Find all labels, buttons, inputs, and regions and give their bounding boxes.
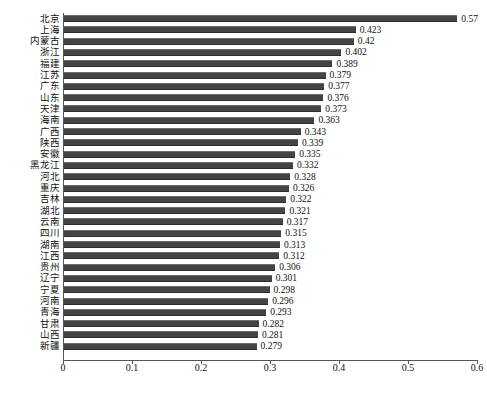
bar bbox=[64, 252, 279, 259]
bar-row: 河南0.296 bbox=[0, 296, 487, 307]
bar bbox=[64, 162, 293, 169]
bar-track: 0.298 bbox=[64, 284, 487, 295]
bar bbox=[64, 72, 326, 79]
bar-row: 上海0.423 bbox=[0, 24, 487, 35]
category-label: 上海 bbox=[40, 25, 63, 35]
bar-track: 0.328 bbox=[64, 171, 487, 182]
bar-value-label: 0.298 bbox=[270, 285, 295, 295]
x-tick-label: 0.4 bbox=[333, 362, 346, 374]
category-label: 江苏 bbox=[40, 70, 63, 80]
bar-row: 宁夏0.298 bbox=[0, 284, 487, 295]
bar bbox=[64, 117, 314, 124]
bar-row: 安徽0.335 bbox=[0, 149, 487, 160]
category-label: 北京 bbox=[40, 14, 63, 24]
bar-value-label: 0.42 bbox=[354, 36, 375, 46]
bar-value-label: 0.373 bbox=[321, 104, 346, 114]
bar-row: 陕西0.339 bbox=[0, 137, 487, 148]
category-label: 辽宁 bbox=[40, 273, 63, 283]
category-label: 天津 bbox=[40, 104, 63, 114]
bar bbox=[64, 331, 258, 338]
bar-track: 0.42 bbox=[64, 36, 487, 47]
bar-track: 0.402 bbox=[64, 47, 487, 58]
x-tick-label: 0.6 bbox=[471, 362, 484, 374]
bar-row: 黑龙江0.332 bbox=[0, 160, 487, 171]
category-label: 吉林 bbox=[40, 194, 63, 204]
bar-track: 0.363 bbox=[64, 115, 487, 126]
x-tick-label: 0.2 bbox=[195, 362, 208, 374]
bar bbox=[64, 83, 324, 90]
category-label: 陕西 bbox=[40, 138, 63, 148]
x-tick-label: 0.3 bbox=[264, 362, 277, 374]
category-label: 宁夏 bbox=[40, 285, 63, 295]
bar-row: 湖南0.313 bbox=[0, 239, 487, 250]
category-label: 福建 bbox=[40, 59, 63, 69]
bar bbox=[64, 286, 270, 293]
category-label: 甘肃 bbox=[40, 319, 63, 329]
bar-row: 甘肃0.282 bbox=[0, 318, 487, 329]
bar-track: 0.301 bbox=[64, 273, 487, 284]
bar-value-label: 0.313 bbox=[280, 240, 305, 250]
bar-row: 河北0.328 bbox=[0, 171, 487, 182]
bar-row: 天津0.373 bbox=[0, 103, 487, 114]
bar-track: 0.315 bbox=[64, 228, 487, 239]
bar-value-label: 0.282 bbox=[259, 319, 284, 329]
bar-track: 0.281 bbox=[64, 329, 487, 340]
bar-track: 0.282 bbox=[64, 318, 487, 329]
bar-row: 福建0.389 bbox=[0, 58, 487, 69]
category-label: 广东 bbox=[40, 81, 63, 91]
bar-track: 0.376 bbox=[64, 92, 487, 103]
bar-value-label: 0.57 bbox=[457, 14, 478, 24]
category-label: 青海 bbox=[40, 307, 63, 317]
bar-value-label: 0.376 bbox=[323, 93, 348, 103]
category-label: 河北 bbox=[40, 172, 63, 182]
bar-value-label: 0.281 bbox=[258, 330, 283, 340]
bar-track: 0.423 bbox=[64, 24, 487, 35]
bar bbox=[64, 139, 298, 146]
bar-track: 0.379 bbox=[64, 70, 487, 81]
bar-value-label: 0.379 bbox=[326, 70, 351, 80]
bar-value-label: 0.293 bbox=[266, 307, 291, 317]
bar-track: 0.306 bbox=[64, 262, 487, 273]
category-label: 河南 bbox=[40, 296, 63, 306]
category-label: 黑龙江 bbox=[30, 160, 63, 170]
bar-track: 0.317 bbox=[64, 216, 487, 227]
bar bbox=[64, 320, 259, 327]
x-tick-label: 0.1 bbox=[126, 362, 139, 374]
bar bbox=[64, 94, 323, 101]
bar-value-label: 0.317 bbox=[283, 217, 308, 227]
x-tick-label: 0 bbox=[61, 362, 66, 374]
bar-track: 0.373 bbox=[64, 103, 487, 114]
bar bbox=[64, 128, 301, 135]
bar-row: 山东0.376 bbox=[0, 92, 487, 103]
bar-value-label: 0.321 bbox=[285, 206, 310, 216]
bar-track: 0.312 bbox=[64, 250, 487, 261]
bar-row: 辽宁0.301 bbox=[0, 273, 487, 284]
bar-track: 0.293 bbox=[64, 307, 487, 318]
bar-row: 新疆0.279 bbox=[0, 341, 487, 352]
bar bbox=[64, 218, 283, 225]
category-label: 安徽 bbox=[40, 149, 63, 159]
bar bbox=[64, 105, 321, 112]
bar-row: 青海0.293 bbox=[0, 307, 487, 318]
bar-row: 浙江0.402 bbox=[0, 47, 487, 58]
bar-row: 江苏0.379 bbox=[0, 70, 487, 81]
bar bbox=[64, 196, 286, 203]
bar-row: 贵州0.306 bbox=[0, 262, 487, 273]
bar-track: 0.57 bbox=[64, 13, 487, 24]
bar-row: 重庆0.326 bbox=[0, 183, 487, 194]
bar-chart: 北京0.57上海0.423内蒙古0.42浙江0.402福建0.389江苏0.37… bbox=[0, 0, 487, 407]
bar-value-label: 0.402 bbox=[341, 47, 366, 57]
category-label: 新疆 bbox=[40, 341, 63, 351]
category-label: 江西 bbox=[40, 251, 63, 261]
bar-value-label: 0.306 bbox=[275, 262, 300, 272]
bar-track: 0.279 bbox=[64, 341, 487, 352]
bar bbox=[64, 343, 257, 350]
bar-value-label: 0.326 bbox=[289, 183, 314, 193]
bar-track: 0.313 bbox=[64, 239, 487, 250]
bar bbox=[64, 151, 295, 158]
bar bbox=[64, 264, 275, 271]
bar-row: 吉林0.322 bbox=[0, 194, 487, 205]
bar bbox=[64, 185, 289, 192]
category-label: 海南 bbox=[40, 115, 63, 125]
bar-row: 湖北0.321 bbox=[0, 205, 487, 216]
